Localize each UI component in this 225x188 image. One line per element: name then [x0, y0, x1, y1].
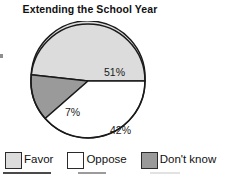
legend: Favor Oppose Don't know — [5, 148, 221, 172]
legend-swatch-dontknow — [141, 152, 158, 169]
legend-label-dontknow: Don't know — [160, 154, 217, 166]
pie-chart-svg — [28, 21, 150, 143]
pie-slice-favor[interactable] — [31, 21, 145, 81]
legend-item-dontknow[interactable]: Don't know — [141, 152, 217, 169]
pie-label-dontknow: 7% — [65, 106, 80, 118]
scan-artifact-bottom-3 — [150, 172, 180, 174]
pie-label-favor: 51% — [104, 66, 125, 78]
page-title: Extending the School Year — [0, 3, 180, 15]
scan-artifact-bottom-2 — [78, 172, 106, 174]
legend-swatch-oppose — [67, 152, 84, 169]
chart-page: Extending the School Year 51% 42% 7% Fav… — [0, 0, 225, 188]
scan-artifact-bottom-1 — [3, 172, 51, 174]
scan-artifact-left — [0, 54, 3, 58]
pie-label-oppose: 42% — [110, 124, 131, 136]
legend-label-favor: Favor — [24, 154, 53, 166]
legend-item-oppose[interactable]: Oppose — [67, 152, 126, 169]
pie-chart: 51% 42% 7% — [28, 21, 150, 143]
legend-swatch-favor — [5, 152, 22, 169]
legend-item-favor[interactable]: Favor — [5, 152, 53, 169]
legend-label-oppose: Oppose — [86, 154, 126, 166]
